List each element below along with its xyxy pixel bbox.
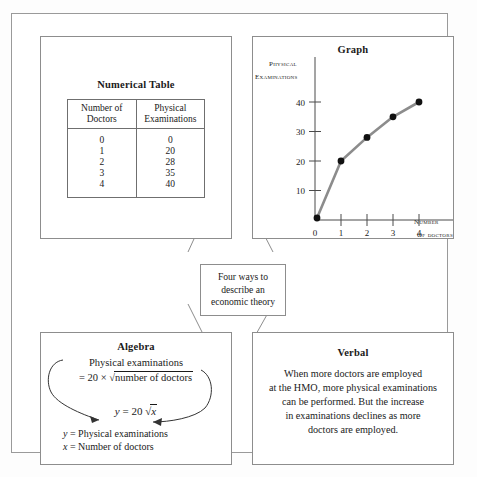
table-row: 1 20 [68, 146, 205, 157]
cell-doctors: 3 [68, 168, 137, 179]
data-point [338, 158, 345, 165]
algebra-line2: = 20 × √number of doctors [41, 371, 231, 384]
verbal-text: When more doctors are employed at the HM… [265, 367, 441, 437]
y-tick-label-30: 30 [296, 127, 306, 137]
legend-x-text: = Number of doctors [70, 441, 154, 452]
figure-outer-frame: Numerical Table Number of Doctors Physic… [11, 13, 448, 453]
y-tick-label-20: 20 [296, 157, 306, 167]
algebra-line1: Physical examinations [41, 356, 231, 369]
legend-y-var: y [63, 428, 67, 439]
verbal-line4: in examinations declines as more [265, 409, 441, 423]
center-caption-line1: Four ways to [201, 271, 285, 284]
table-header-exams: Physical Examinations [136, 100, 205, 129]
cell-doctors: 0 [68, 129, 137, 147]
legend-y-text: = Physical examinations [70, 428, 168, 439]
verbal-line3: can be performed. But the increase [265, 395, 441, 409]
data-curve [317, 102, 419, 218]
cell-exams: 28 [136, 157, 205, 168]
arrow-right-head [153, 418, 162, 426]
x-tick-label-2: 2 [365, 228, 370, 238]
algebra-body: Physical examinations = 20 × √number of … [41, 356, 231, 464]
cell-exams: 0 [136, 129, 205, 147]
x-tick-label-4: 4 [417, 228, 422, 238]
verbal-title: Verbal [253, 347, 453, 358]
verbal-line5: doctors are employed. [265, 423, 441, 437]
center-caption-line3: economic theory [201, 296, 285, 309]
data-point [390, 113, 397, 120]
table-row: 0 0 [68, 129, 205, 147]
algebra-equation: y = 20 √x [41, 405, 231, 418]
panel-graph: Graph Physical Examinations Number of do… [252, 36, 454, 239]
panel-numerical-table: Numerical Table Number of Doctors Physic… [40, 36, 232, 239]
y-tick-label-10: 10 [296, 186, 306, 196]
verbal-line1: When more doctors are employed [265, 367, 441, 381]
x-tick-label-0: 0 [313, 228, 318, 238]
algebra-line2-prefix: = 20 × [79, 372, 107, 383]
table-header-doctors: Number of Doctors [68, 100, 137, 129]
table-header-row: Number of Doctors Physical Examinations [68, 100, 205, 129]
algebra-line2-radical: √number of doctors [109, 372, 193, 383]
table-row: 2 28 [68, 157, 205, 168]
data-point [314, 215, 321, 222]
table-row: 3 35 [68, 168, 205, 179]
panel-verbal: Verbal When more doctors are employed at… [252, 332, 454, 465]
legend-x-var: x [63, 441, 67, 452]
graph-plot: 10 20 30 40 0 1 2 3 4 [253, 37, 455, 240]
numerical-table-title: Numerical Table [41, 79, 231, 90]
cell-doctors: 4 [68, 179, 137, 198]
cell-exams: 20 [136, 146, 205, 157]
x-tick-label-1: 1 [339, 228, 344, 238]
data-point [364, 134, 371, 141]
cell-exams: 40 [136, 179, 205, 198]
center-caption-box: Four ways to describe an economic theory [200, 264, 286, 316]
verbal-line2: at the HMO, more physical examinations [265, 381, 441, 395]
cell-doctors: 2 [68, 157, 137, 168]
cell-doctors: 1 [68, 146, 137, 157]
table-row: 4 40 [68, 179, 205, 198]
numerical-table: Number of Doctors Physical Examinations … [67, 99, 205, 198]
equation-lhs: y [115, 405, 120, 417]
panel-algebra: Algebra Physical examinations = 20 × √nu… [40, 332, 232, 465]
y-tick-label-40: 40 [296, 98, 306, 108]
center-caption-line2: describe an [201, 284, 285, 297]
algebra-legend-x: x = Number of doctors [41, 440, 231, 453]
figure-canvas: Numerical Table Number of Doctors Physic… [0, 0, 477, 477]
data-point [416, 99, 423, 106]
equation-mid: = 20 [122, 405, 142, 417]
cell-exams: 35 [136, 168, 205, 179]
algebra-legend-y: y = Physical examinations [41, 427, 231, 440]
algebra-title: Algebra [41, 341, 231, 352]
x-tick-label-3: 3 [391, 228, 396, 238]
equation-radical: √x [145, 405, 157, 417]
